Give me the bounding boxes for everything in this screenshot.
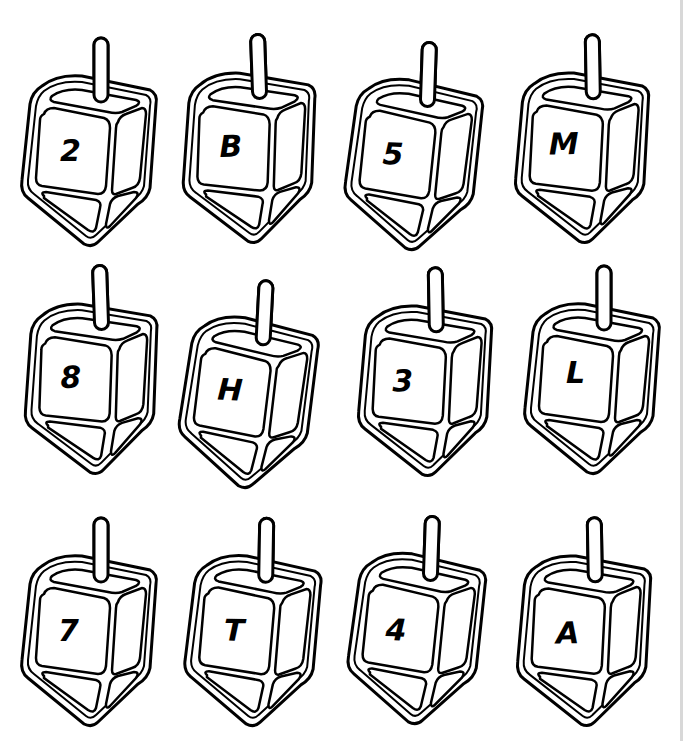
dreidel: H — [166, 266, 327, 494]
dreidel-label: L — [545, 356, 605, 390]
dreidel-label: 3 — [372, 364, 433, 399]
dreidel: M — [503, 24, 657, 247]
dreidel: 4 — [336, 503, 494, 728]
dreidel-label: 8 — [40, 360, 101, 396]
dreidel-label: B — [200, 129, 261, 165]
dreidel-label: H — [199, 372, 261, 409]
dreidel: 7 — [12, 508, 162, 728]
dreidel: 2 — [12, 28, 162, 248]
dreidel-label: 7 — [38, 614, 98, 648]
dreidel-label: 5 — [362, 136, 423, 172]
dreidel: T — [174, 507, 328, 730]
dreidel: 5 — [333, 29, 491, 254]
dreidel: L — [515, 256, 665, 476]
dreidel-label: A — [537, 616, 598, 651]
dreidel-label: T — [203, 613, 264, 648]
dreidel: 8 — [10, 253, 168, 478]
dreidel: 3 — [346, 257, 500, 480]
dreidel-worksheet: 2 B 5 M 8 H 3 L 7 T 4 A — [0, 0, 683, 741]
dreidel-label: M — [533, 127, 594, 162]
dreidel-label: 2 — [40, 134, 100, 168]
dreidel-label: 4 — [365, 612, 426, 648]
dreidel: B — [168, 22, 326, 247]
dreidel: A — [505, 507, 659, 730]
